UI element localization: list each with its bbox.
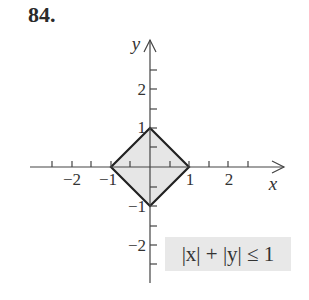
x-tick-label: −2 xyxy=(63,170,81,189)
inequality-annotation: |x| + |y| ≤ 1 xyxy=(182,242,275,266)
x-tick-label: 2 xyxy=(225,170,234,189)
x-tick-label: −1 xyxy=(99,170,117,189)
y-tick-label: 2 xyxy=(138,80,147,99)
y-tick-label: −1 xyxy=(128,197,146,216)
y-tick-label: 1 xyxy=(138,118,147,137)
x-tick-label: 1 xyxy=(186,170,195,189)
y-tick-label: −2 xyxy=(128,236,146,255)
graph: −2 −1 1 2 2 1 −1 −2 x y |x| + |y| ≤ 1 xyxy=(0,0,309,300)
x-axis-label: x xyxy=(268,173,278,194)
y-axis-label: y xyxy=(130,33,141,54)
